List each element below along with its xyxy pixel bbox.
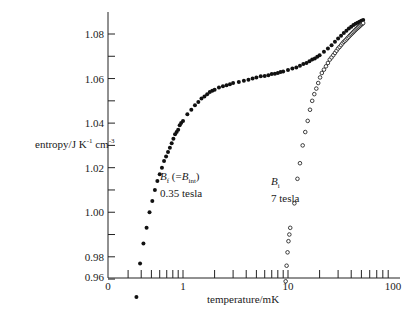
data-point-filled [336,36,340,40]
annotation-i-subscript: i [278,182,280,190]
data-point-open [298,161,302,165]
data-point-open [306,119,310,123]
data-point-filled [162,159,166,163]
data-point-filled [246,78,250,82]
entropy-temperature-chart: 0.960.981.001.021.041.061.08 0110100 [0,0,415,319]
data-point-open [303,130,307,134]
data-point-filled [168,146,172,150]
data-point-filled [166,150,170,154]
data-point-open [316,81,320,85]
y-tick-label: 1.06 [85,73,105,85]
data-point-filled [141,241,145,245]
data-point-filled [326,46,330,50]
data-point-filled [176,128,180,132]
data-point-filled [217,85,221,89]
data-point-open [308,108,312,112]
annotation-b-f-line1: Bf (=Bint) [160,170,202,187]
y-axis-ticks: 0.960.981.001.021.041.061.08 [85,28,115,283]
data-point-filled [134,295,138,299]
data-point-open [286,251,290,255]
data-point-filled [221,84,225,88]
data-point-open [320,71,324,75]
annotation-b-f-series: Bf (=Bint) 0.35 tesla [160,170,202,199]
annotation-int-subscript: int [188,177,195,185]
data-point-filled [251,77,255,81]
y-axis-label: entropy/J K-1 cm-3 [35,137,115,150]
data-point-filled [290,67,294,71]
data-point-open [285,264,289,268]
x-tick-label: 100 [385,280,402,292]
y-axis-label-cm: cm [92,138,108,150]
y-axis-label-text: entropy/J K [35,138,87,150]
data-point-filled [294,65,298,69]
annotation-equals: (= [169,170,182,182]
annotation-b-i-series: Bi 7 tesla [271,175,299,204]
data-point-filled [318,53,322,57]
data-point-filled [259,74,263,78]
data-point-open [318,76,322,80]
data-point-open [287,239,291,243]
data-point-filled [339,34,343,38]
data-point-open [310,99,314,103]
data-point-filled [213,88,217,92]
annotation-b-symbol: B [160,170,167,182]
y-tick-label: 1.00 [85,206,105,218]
data-point-filled [242,79,246,83]
data-point-open [312,92,316,96]
data-point-filled [330,43,334,47]
data-point-open [284,280,288,284]
data-point-filled [150,199,154,203]
x-axis-ticks: 0110100 [105,270,402,292]
x-tick-label: 0 [105,280,111,292]
data-point-open [361,21,365,25]
y-tick-label: 0.98 [85,251,105,263]
y-tick-label: 1.04 [85,117,105,129]
data-point-filled [148,210,152,214]
data-point-filled [145,226,149,230]
axes [108,12,400,278]
data-point-filled [254,75,258,79]
data-point-filled [281,69,285,73]
data-point-filled [196,100,200,104]
data-point-filled [171,137,175,141]
data-point-filled [231,81,235,85]
data-point-open [314,87,318,91]
data-point-filled [237,80,241,84]
y-axis-label-cm-exponent: -3 [109,137,115,145]
annotation-b-i-line1: Bi [271,175,299,192]
data-point-open [322,68,326,72]
data-point-filled [138,261,142,265]
annotation-b-i-line2: 7 tesla [271,192,299,204]
x-tick-label: 1 [180,280,186,292]
y-tick-label: 1.02 [85,162,104,174]
data-point-filled [286,68,290,72]
data-point-filled [170,141,174,145]
annotation-b-f-line2: 0.35 tesla [160,187,202,199]
series-b-i-7-tesla-points [284,21,365,283]
data-point-filled [193,103,197,107]
y-tick-label: 1.08 [85,28,105,40]
data-point-open [301,144,305,148]
data-point-filled [322,50,326,54]
data-point-filled [185,112,189,116]
data-point-filled [189,108,193,112]
data-point-open [288,226,292,230]
data-point-open [288,233,292,237]
y-tick-label: 0.96 [85,271,105,283]
annotation-b-i-symbol: B [271,175,278,187]
data-point-filled [333,40,337,44]
data-point-filled [263,74,267,78]
data-point-filled [153,188,157,192]
data-point-filled [164,155,168,159]
annotation-close-paren: ) [196,170,200,182]
data-point-filled [181,119,185,123]
data-point-filled [155,179,159,183]
x-axis-label: temperature/mK [207,293,279,305]
